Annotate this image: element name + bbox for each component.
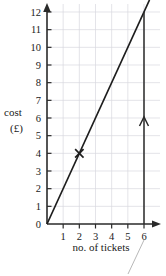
y-tick-label: 9 <box>36 60 41 71</box>
y-tick-label: 1 <box>36 201 41 212</box>
y-tick-label: 6 <box>36 113 41 124</box>
y-tick-label: 3 <box>36 166 41 177</box>
y-tick-label: 10 <box>31 42 42 53</box>
x-axis-label: no. of tickets <box>72 241 129 253</box>
y-tick-label: 0 <box>36 219 41 230</box>
y-tick-label: 4 <box>36 148 42 159</box>
y-tick-label: 11 <box>31 24 41 35</box>
y-axis-label-line2: (£) <box>10 122 23 135</box>
x-tick-label: 1 <box>61 231 66 242</box>
y-tick-label: 5 <box>36 130 41 141</box>
chart-canvas: 0123456789101112 123456 cost (£) no. of … <box>0 0 166 276</box>
y-axis-label-line1: cost <box>4 106 22 118</box>
y-tick-label: 7 <box>36 95 41 106</box>
line-chart: 0123456789101112 123456 cost (£) no. of … <box>0 0 166 276</box>
y-tick-label: 12 <box>31 7 42 18</box>
y-tick-label: 8 <box>36 77 41 88</box>
y-tick-label: 2 <box>36 183 41 194</box>
